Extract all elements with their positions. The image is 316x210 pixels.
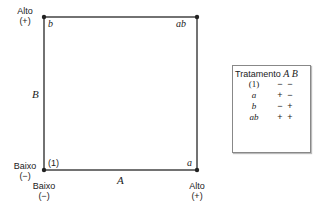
axis-label-a: A bbox=[117, 174, 124, 186]
table-row: a + − bbox=[233, 90, 310, 101]
table-header: Tratamento A B bbox=[233, 66, 310, 79]
table-row: b − + bbox=[233, 101, 310, 112]
corner-label-b: b bbox=[48, 18, 53, 29]
corner-point-a bbox=[195, 168, 199, 172]
y-high-label: Alto (+) bbox=[10, 6, 40, 26]
corner-label-ab: ab bbox=[176, 18, 186, 29]
treatment-table: Tratamento A B (1) − − a + − b − + ab + … bbox=[232, 65, 311, 153]
table-row: ab + + bbox=[233, 112, 310, 123]
corner-label-a: a bbox=[187, 157, 192, 168]
x-high-label: Alto (+) bbox=[182, 181, 212, 201]
corner-point-1 bbox=[42, 168, 46, 172]
design-square bbox=[44, 17, 197, 170]
y-low-label: Baixo (−) bbox=[10, 161, 40, 181]
corner-point-b bbox=[42, 15, 46, 19]
corner-label-1: (1) bbox=[48, 158, 59, 168]
corner-point-ab bbox=[195, 15, 199, 19]
x-low-label: Baixo (−) bbox=[29, 181, 59, 201]
table-row: (1) − − bbox=[233, 79, 310, 90]
axis-label-b: B bbox=[32, 88, 39, 100]
